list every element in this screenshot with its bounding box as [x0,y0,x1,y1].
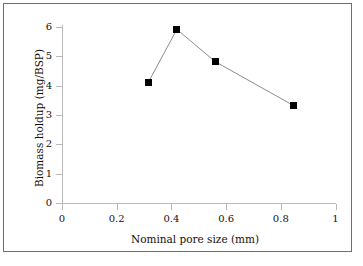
y-axis-label: Biomass holdup (mg/BSP) [33,28,45,208]
x-axis-label: Nominal pore size (mm) [0,233,363,245]
plot-area: 0123456 00.20.40.60.81 Nominal pore size… [0,0,363,266]
data-point-marker [212,58,219,65]
series-polyline [0,0,363,266]
data-point-marker [145,79,152,86]
data-point-marker [290,102,297,109]
data-point-marker [173,26,180,33]
chart-figure: 0123456 00.20.40.60.81 Nominal pore size… [0,0,363,266]
